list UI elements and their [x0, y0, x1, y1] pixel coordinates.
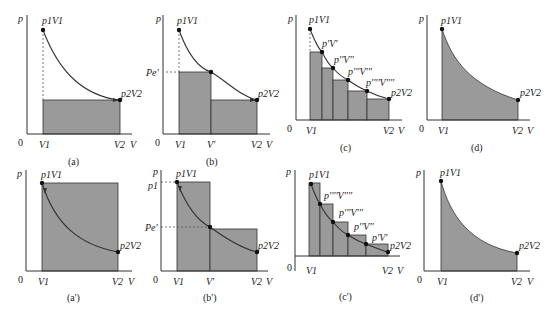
work-area [42, 183, 118, 271]
start-label: p1V1 [439, 167, 461, 178]
start-label: p1V1 [40, 169, 62, 180]
v1-label: V1 [173, 276, 184, 287]
end-label: p2V2 [120, 88, 142, 99]
v1-label: V1 [437, 276, 448, 287]
p-axis-label: p [415, 167, 421, 178]
step-label: p'''V''' [338, 207, 364, 218]
panel-d: p p1V1 p2V2 0 V1 V2 V [418, 13, 541, 136]
v1-label: V1 [438, 125, 449, 136]
caption-d-prime: (d') [470, 292, 483, 304]
panel-a: p p1V1 p2V2 0 V1 V2 V [17, 13, 142, 150]
v2-label: V2 [383, 125, 394, 136]
caption-a: (a) [68, 156, 79, 168]
step-label: p''V'' [333, 54, 355, 65]
v-axis-label: V [527, 276, 535, 287]
end-label: p2V2 [257, 88, 279, 99]
start-label: p1V1 [176, 15, 198, 26]
origin-label: 0 [419, 123, 424, 134]
start-label: p1V1 [308, 169, 330, 180]
work-area [442, 29, 518, 120]
step-label: p'V' [321, 38, 338, 49]
origin-label: 0 [287, 123, 292, 134]
v1-label: V1 [38, 276, 49, 287]
v2-label: V2 [112, 276, 123, 287]
v1-label: V1 [306, 125, 317, 136]
v1-label: V1 [39, 139, 50, 150]
panel-b-prime: p p1V1 p1 Pe' p2V2 0 V1 V' V2 V [144, 166, 279, 287]
panel-a-prime: p p1V1 p2V2 0 V1 V2 V [16, 168, 141, 287]
p-axis-label: p [16, 168, 22, 179]
work-area [441, 181, 517, 271]
work-area-step1 [179, 72, 211, 134]
v-axis-label: V [398, 125, 406, 136]
caption-d: (d) [471, 142, 483, 154]
v2-label: V2 [114, 139, 125, 150]
v-axis-label: V [266, 276, 274, 287]
start-label: p1V1 [308, 14, 330, 25]
vmid-label: V' [206, 276, 215, 287]
end-label: p2V2 [389, 240, 411, 251]
pv-diagram-figure: p p1V1 p2V2 0 V1 V2 V (a) p p1V1 p2V2 Pe… [0, 0, 556, 319]
caption-c: (c) [340, 142, 351, 154]
start-label: p1V1 [41, 15, 63, 26]
v-axis-label: V [266, 139, 274, 150]
step-label: p'''V''' [347, 66, 373, 77]
start-point [41, 28, 45, 32]
v-axis-label: V [397, 265, 405, 276]
start-label: p1V1 [175, 168, 197, 179]
v2-label: V2 [512, 125, 523, 136]
caption-b-prime: (b') [203, 292, 216, 304]
end-label: p2V2 [257, 240, 279, 251]
pe-label: Pe' [145, 67, 160, 78]
work-area-step2 [211, 100, 257, 134]
origin-label: 0 [417, 274, 422, 285]
v2-label: V2 [251, 276, 262, 287]
p-axis-label: p [152, 166, 158, 177]
v1-label: V1 [175, 139, 186, 150]
panel-c-prime: p p1V1 p''''V'''' p'''V''' p''V'' p'V' p… [285, 166, 411, 276]
step-label: p'V' [371, 232, 388, 243]
p-axis-label: p [17, 13, 23, 24]
v-axis-label: V [130, 139, 138, 150]
vmid-label: V' [207, 139, 216, 150]
panel-d-prime: p p1V1 p2V2 0 V1 V2 V [415, 167, 540, 287]
origin-label: 0 [155, 137, 160, 148]
caption-c-prime: (c') [339, 291, 352, 303]
end-label: p2V2 [518, 240, 540, 251]
origin-label: 0 [287, 262, 292, 273]
origin-label: 0 [18, 274, 23, 285]
end-label: p2V2 [119, 240, 141, 251]
start-label: p1V1 [440, 15, 462, 26]
v2-label: V2 [382, 265, 393, 276]
step-label: p''V'' [353, 221, 375, 232]
origin-label: 0 [18, 137, 23, 148]
pe-label: Pe' [144, 222, 159, 233]
p1-label: p1 [147, 180, 158, 191]
step-label: p''''V'''' [323, 190, 353, 201]
p-axis-label: p [155, 13, 161, 24]
end-label: p2V2 [519, 87, 541, 98]
v-axis-label: V [527, 125, 535, 136]
p-axis-label: p [285, 166, 291, 177]
p-axis-label: p [287, 13, 293, 24]
caption-b: (b) [206, 156, 218, 168]
end-label: p2V2 [390, 87, 412, 98]
isotherm-curve [43, 30, 118, 100]
origin-label: 0 [153, 274, 158, 285]
v1-label: V1 [306, 265, 317, 276]
v2-label: V2 [251, 139, 262, 150]
p-axis-label: p [418, 13, 424, 24]
v2-label: V2 [511, 276, 522, 287]
work-area [43, 100, 120, 134]
panel-b: p p1V1 p2V2 Pe' 0 V1 V' V2 V [145, 13, 279, 150]
v-axis-label: V [128, 276, 136, 287]
panel-c: p p1V1 p'V' p''V'' p'''V''' p''''V'''' p… [287, 13, 412, 136]
caption-a-prime: (a') [67, 292, 80, 304]
